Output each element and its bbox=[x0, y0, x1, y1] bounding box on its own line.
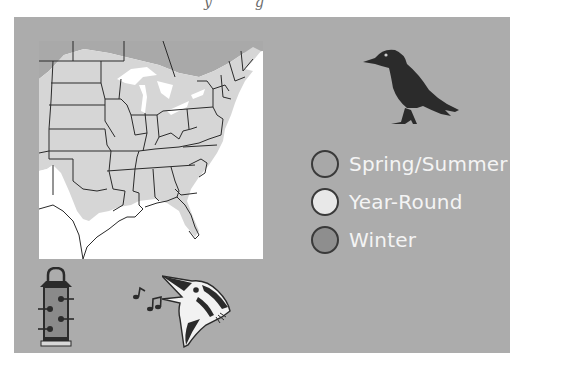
legend: Spring/Summer Year-Round Winter bbox=[311, 145, 508, 259]
range-map bbox=[39, 41, 263, 259]
legend-label: Winter bbox=[349, 228, 416, 252]
singing-bird-head-icon bbox=[162, 273, 234, 353]
range-map-panel: Spring/Summer Year-Round Winter bbox=[14, 17, 510, 353]
legend-item-year-round: Year-Round bbox=[311, 183, 508, 221]
legend-item-spring-summer: Spring/Summer bbox=[311, 145, 508, 183]
eastern-us-map-icon bbox=[39, 41, 263, 259]
music-notes-icon bbox=[132, 285, 164, 317]
legend-label: Year-Round bbox=[349, 190, 463, 214]
winter-swatch-icon bbox=[311, 226, 339, 254]
crow-silhouette-icon bbox=[361, 38, 461, 134]
cropped-title-fragment: g bbox=[255, 0, 264, 10]
legend-item-winter: Winter bbox=[311, 221, 508, 259]
cropped-title-fragment: y bbox=[204, 0, 212, 10]
spring-summer-swatch-icon bbox=[311, 150, 339, 178]
year-round-swatch-icon bbox=[311, 188, 339, 216]
tube-feeder-icon bbox=[34, 267, 78, 353]
legend-label: Spring/Summer bbox=[349, 152, 508, 176]
